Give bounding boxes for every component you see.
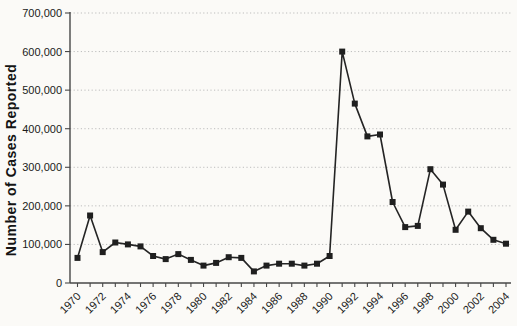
- data-point-marker: [440, 182, 446, 188]
- x-tick-label: 1998: [410, 290, 436, 316]
- data-point-marker: [226, 254, 232, 260]
- y-tick-label: 500,000: [22, 84, 62, 96]
- data-point-marker: [163, 256, 169, 262]
- x-tick-label: 1974: [108, 290, 134, 316]
- data-point-marker: [364, 133, 370, 139]
- x-tick-label: 1984: [234, 290, 260, 316]
- data-point-marker: [478, 225, 484, 231]
- x-tick-label: 2004: [486, 290, 512, 316]
- cases-reported-line-chart: Number of Cases Reported 0100,000200,000…: [0, 0, 517, 326]
- x-tick-label: 1970: [57, 290, 83, 316]
- y-axis-title: Number of Cases Reported: [3, 64, 19, 256]
- data-point-marker: [213, 260, 219, 266]
- data-point-marker: [264, 263, 270, 269]
- data-point-marker: [327, 253, 333, 259]
- data-point-marker: [415, 223, 421, 229]
- data-point-marker: [490, 237, 496, 243]
- data-point-marker: [377, 132, 383, 138]
- x-tick-label: 1972: [82, 290, 108, 316]
- data-series: [75, 49, 510, 275]
- axes: [70, 12, 511, 283]
- data-point-marker: [314, 261, 320, 267]
- y-axis-ticks: [65, 13, 70, 283]
- series-line: [78, 52, 507, 272]
- data-point-marker: [289, 261, 295, 267]
- x-tick-label: 1994: [360, 290, 386, 316]
- data-point-marker: [175, 251, 181, 257]
- x-tick-label: 1988: [284, 290, 310, 316]
- chart-canvas: Number of Cases Reported 0100,000200,000…: [0, 0, 517, 326]
- data-point-marker: [150, 253, 156, 259]
- data-point-marker: [352, 101, 358, 107]
- y-tick-label: 400,000: [22, 123, 62, 135]
- x-tick-label: 1986: [259, 290, 285, 316]
- data-point-marker: [402, 224, 408, 230]
- y-tick-label: 300,000: [22, 161, 62, 173]
- data-point-marker: [125, 241, 131, 247]
- x-tick-label: 2002: [460, 290, 486, 316]
- data-point-marker: [188, 257, 194, 263]
- x-tick-label: 1982: [208, 290, 234, 316]
- data-point-marker: [339, 49, 345, 55]
- data-point-marker: [453, 227, 459, 233]
- data-point-marker: [100, 249, 106, 255]
- x-tick-label: 1996: [385, 290, 411, 316]
- data-point-marker: [276, 261, 282, 267]
- y-tick-label: 600,000: [22, 46, 62, 58]
- data-point-marker: [503, 241, 509, 247]
- x-axis-tick-labels: 1970197219741976197819801982198419861988…: [57, 290, 511, 316]
- data-point-marker: [112, 240, 118, 246]
- data-point-marker: [138, 243, 144, 249]
- y-tick-label: 0: [56, 277, 62, 289]
- x-tick-label: 1992: [334, 290, 360, 316]
- x-tick-label: 1980: [183, 290, 209, 316]
- data-point-marker: [75, 255, 81, 261]
- data-point-marker: [465, 209, 471, 215]
- x-tick-label: 1978: [158, 290, 184, 316]
- y-tick-label: 100,000: [22, 238, 62, 250]
- data-point-marker: [201, 263, 207, 269]
- data-point-marker: [390, 199, 396, 205]
- data-point-marker: [87, 213, 93, 219]
- data-point-marker: [427, 166, 433, 172]
- x-tick-label: 2000: [435, 290, 461, 316]
- y-tick-label: 200,000: [22, 200, 62, 212]
- y-axis-tick-labels: 0100,000200,000300,000400,000500,000600,…: [22, 7, 62, 289]
- data-point-marker: [251, 268, 257, 274]
- data-point-marker: [238, 255, 244, 261]
- gridlines: [70, 13, 511, 244]
- x-tick-label: 1990: [309, 290, 335, 316]
- data-point-marker: [301, 263, 307, 269]
- x-tick-label: 1976: [133, 290, 159, 316]
- y-tick-label: 700,000: [22, 7, 62, 19]
